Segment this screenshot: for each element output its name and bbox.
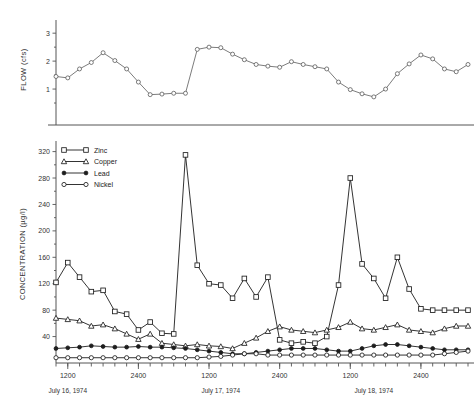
conc-tick-label: 240 [38, 201, 50, 208]
data-point-zinc [266, 275, 271, 280]
data-point-copper [348, 319, 353, 324]
data-point-zinc [301, 340, 306, 345]
conc-tick-label: 160 [38, 254, 50, 261]
data-point-lead [89, 344, 93, 348]
data-point-copper [336, 325, 341, 330]
data-point-nickel [54, 356, 58, 360]
data-point-nickel [336, 353, 340, 357]
time-tick-label: 1200 [342, 372, 358, 379]
data-point-lead [313, 347, 317, 351]
data-point-nickel [242, 352, 246, 356]
flow-data-point [337, 80, 341, 84]
flow-data-point [183, 91, 187, 95]
data-point-nickel [278, 353, 282, 357]
flow-axis-title: FLOW (cfs) [19, 48, 28, 90]
data-point-lead [395, 343, 399, 347]
data-point-zinc [65, 260, 70, 265]
data-point-copper [147, 331, 152, 336]
data-point-lead [207, 349, 211, 353]
flow-data-point [219, 46, 223, 50]
data-point-lead [337, 349, 341, 353]
data-point-lead [184, 347, 188, 351]
data-point-lead [266, 349, 270, 353]
data-point-zinc [113, 309, 118, 314]
flow-data-point [125, 67, 129, 71]
data-point-zinc [348, 176, 353, 181]
data-point-zinc [277, 338, 282, 343]
conc-tick-label: 280 [38, 175, 50, 182]
flow-data-point [195, 47, 199, 51]
flow-panel: 123FLOW (cfs) [19, 20, 474, 125]
flow-data-point [395, 72, 399, 76]
flow-data-point [384, 87, 388, 91]
data-point-nickel [301, 353, 305, 357]
data-point-zinc [289, 341, 294, 346]
flow-data-point [466, 62, 470, 66]
data-point-zinc [148, 320, 153, 325]
data-point-nickel [395, 353, 399, 357]
series-line-zinc [56, 155, 468, 343]
data-point-zinc [419, 307, 424, 312]
data-point-lead [384, 343, 388, 347]
flow-data-point [442, 67, 446, 71]
flow-data-point [254, 62, 258, 66]
data-point-lead [219, 351, 223, 355]
data-point-lead [360, 347, 364, 351]
date-label: July 18, 1974 [354, 387, 393, 395]
data-point-copper [359, 326, 364, 331]
data-point-zinc [171, 332, 176, 337]
legend: ZincCopperLeadNickel [61, 147, 117, 189]
data-point-copper [395, 322, 400, 327]
flow-data-point [231, 52, 235, 56]
legend-marker-nickel [84, 182, 88, 186]
data-point-zinc [395, 255, 400, 260]
data-point-nickel [289, 353, 293, 357]
data-point-zinc [442, 308, 447, 313]
flow-data-point [113, 59, 117, 63]
time-tick-label: 1200 [201, 372, 217, 379]
data-point-zinc [313, 341, 318, 346]
data-point-nickel [136, 356, 140, 360]
flow-data-point [242, 58, 246, 62]
data-point-zinc [324, 334, 329, 339]
data-point-nickel [431, 353, 435, 357]
data-point-nickel [384, 353, 388, 357]
time-tick-label: 2400 [413, 372, 429, 379]
data-point-nickel [466, 349, 470, 353]
data-point-copper [265, 329, 270, 334]
data-point-zinc [160, 331, 165, 336]
time-tick-label: 1200 [60, 372, 76, 379]
data-point-nickel [325, 353, 329, 357]
conc-tick-label: 320 [38, 148, 50, 155]
data-point-lead [348, 349, 352, 353]
flow-data-point [148, 93, 152, 97]
data-point-zinc [454, 308, 459, 313]
data-point-nickel [442, 352, 446, 356]
data-point-nickel [77, 356, 81, 360]
data-point-zinc [430, 308, 435, 313]
conc-axis-title: CONCENTRATION (µg/l) [18, 208, 27, 300]
data-point-zinc [372, 276, 377, 281]
legend-marker-zinc [84, 148, 89, 153]
legend-label-zinc: Zinc [94, 147, 108, 154]
conc-tick-label: 80 [42, 307, 50, 314]
flow-data-point [101, 51, 105, 55]
data-point-copper [253, 335, 258, 340]
data-point-nickel [160, 356, 164, 360]
conc-tick-label: 120 [38, 280, 50, 287]
data-point-nickel [360, 353, 364, 357]
date-label: July 16, 1974 [48, 387, 87, 395]
flow-data-point [419, 53, 423, 57]
conc-tick-label: 200 [38, 227, 50, 234]
legend-marker-zinc [62, 148, 67, 153]
data-point-copper [136, 337, 141, 342]
legend-label-nickel: Nickel [94, 181, 114, 188]
legend-marker-nickel [62, 182, 66, 186]
data-point-nickel [66, 356, 70, 360]
flow-data-point [278, 65, 282, 69]
data-point-zinc [242, 276, 247, 281]
data-point-lead [195, 348, 199, 352]
figure-root: 123FLOW (cfs) 4080120160200240280320CONC… [0, 0, 476, 405]
data-point-nickel [113, 356, 117, 360]
flow-data-point [360, 92, 364, 96]
